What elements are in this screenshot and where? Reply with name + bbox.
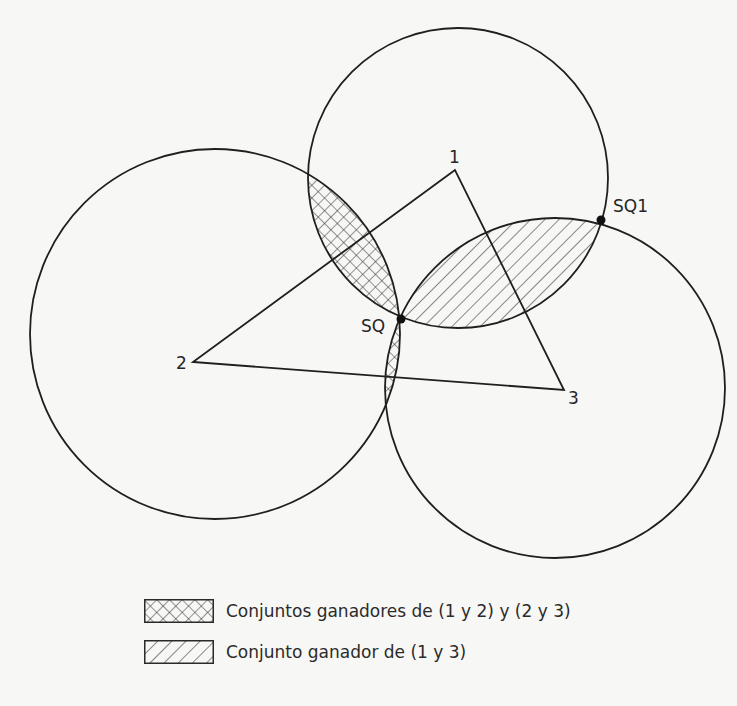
winset-1-3 xyxy=(385,218,725,558)
crosshatch-swatch-icon xyxy=(144,599,214,623)
legend-label-diagonal: Conjunto ganador de (1 y 3) xyxy=(226,642,466,662)
legend-item-crosshatch: Conjuntos ganadores de (1 y 2) y (2 y 3) xyxy=(144,598,571,624)
sq-point xyxy=(397,315,406,324)
winset-1-2 xyxy=(30,149,400,519)
ideal-point-1-label: 1 xyxy=(449,147,460,167)
diagonal-hatch-swatch-icon xyxy=(144,640,214,664)
ideal-point-2-label: 2 xyxy=(176,353,187,373)
ideal-point-3-label: 3 xyxy=(568,388,579,408)
legend: Conjuntos ganadores de (1 y 2) y (2 y 3)… xyxy=(144,598,571,680)
sq1-label: SQ1 xyxy=(613,196,648,216)
sq1-point xyxy=(597,216,606,225)
sq-label: SQ xyxy=(361,316,385,336)
legend-label-crosshatch: Conjuntos ganadores de (1 y 2) y (2 y 3) xyxy=(226,601,571,621)
legend-item-diagonal: Conjunto ganador de (1 y 3) xyxy=(144,639,571,665)
